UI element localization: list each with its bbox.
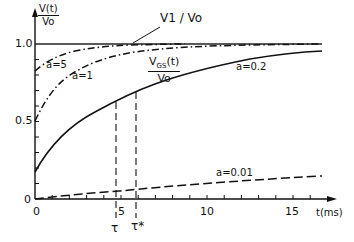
x-axis-arrow-icon <box>327 196 337 202</box>
x-tick-label-0: 0 <box>33 206 40 217</box>
series-a001 <box>35 176 322 199</box>
vgs-t: (t) <box>166 55 179 68</box>
y-axis-label-numerator: V(t) <box>38 4 59 16</box>
x-tick-label-15: 15 <box>285 206 299 217</box>
label-a001: a=0.01 <box>216 168 253 178</box>
label-a02: a=0.2 <box>236 62 266 72</box>
v1-label-den: Vo <box>188 11 203 25</box>
vgs-sub: GS <box>157 62 167 70</box>
label-a1: a=1 <box>72 71 93 81</box>
x-tick-label-5: 5 <box>118 206 125 217</box>
x-axis-label: t(ms) <box>316 208 343 218</box>
vgs-v: V <box>149 55 157 68</box>
y-tick-label-1: 1.0 <box>15 38 33 49</box>
chart-canvas <box>0 0 354 242</box>
y-axis-label: V(t) Vo <box>38 4 59 27</box>
vgs-label-denominator: Vo <box>148 72 180 84</box>
tau-star-label: τ* <box>131 220 144 232</box>
v1-label-slash: / <box>180 11 184 25</box>
vgs-label-numerator: VGS(t) <box>148 56 180 72</box>
y-tick-label-0: 0 <box>24 194 31 205</box>
v1-label: V1 / Vo <box>160 12 202 24</box>
tau-label: τ <box>111 222 118 234</box>
y-tick-label-05: 0.5 <box>15 115 33 126</box>
label-a5: a=5 <box>46 60 67 70</box>
x-tick-label-10: 10 <box>200 206 214 217</box>
v1-label-num: V1 <box>160 11 176 25</box>
vgs-label: VGS(t) Vo <box>148 56 180 84</box>
v1-pointer <box>133 27 160 43</box>
y-axis-label-denominator: Vo <box>38 16 59 27</box>
